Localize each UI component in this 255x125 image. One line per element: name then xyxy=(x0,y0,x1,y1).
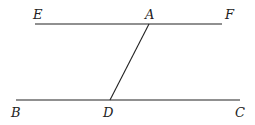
label-f: F xyxy=(224,7,235,22)
label-c: C xyxy=(235,105,245,120)
label-e: E xyxy=(32,7,43,22)
label-b: B xyxy=(10,105,21,120)
geometry-diagram: E A F B D C xyxy=(0,0,255,125)
label-a: A xyxy=(144,7,154,22)
segment-ad xyxy=(110,24,149,100)
label-d: D xyxy=(102,105,114,120)
